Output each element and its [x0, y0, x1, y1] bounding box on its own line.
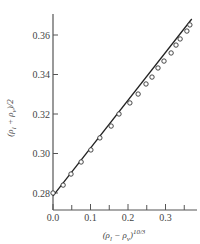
x-tick-label: 0.0	[47, 212, 60, 223]
data-point	[144, 82, 148, 86]
x-tick-label: 0.3	[159, 212, 172, 223]
data-point	[51, 191, 55, 195]
y-tick-label: 0.32	[33, 109, 51, 120]
data-point	[136, 92, 140, 96]
x-tick-label: 0.1	[84, 212, 97, 223]
data-point	[185, 29, 189, 33]
chart: 0.280.300.320.340.360.00.10.20.3 (ρl − ρ…	[0, 0, 200, 244]
data-point	[178, 37, 182, 41]
data-point	[117, 112, 121, 116]
y-tick-label: 0.30	[33, 148, 51, 159]
data-point	[162, 59, 166, 63]
data-point	[128, 101, 132, 105]
data-point	[89, 148, 93, 152]
data-point	[169, 51, 173, 55]
x-axis-title: (ρl − ρv)10/3	[103, 228, 146, 243]
data-point	[150, 75, 154, 79]
data-point	[98, 136, 102, 140]
fit-line	[53, 19, 192, 196]
data-point	[174, 43, 178, 47]
data-point	[188, 23, 192, 27]
data-point	[79, 160, 83, 164]
y-tick-label: 0.28	[33, 188, 51, 199]
x-tick-label: 0.2	[122, 212, 135, 223]
y-axis-title: (ρl + ρv)/2	[5, 99, 18, 137]
data-point	[69, 172, 73, 176]
data-point	[156, 66, 160, 70]
data-point	[61, 183, 65, 187]
y-tick-label: 0.36	[33, 30, 51, 41]
fit-line-segment	[53, 19, 192, 196]
data-point	[109, 124, 113, 128]
y-tick-label: 0.34	[33, 69, 51, 80]
